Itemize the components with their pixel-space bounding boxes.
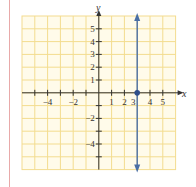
svg-text:2: 2 xyxy=(90,62,95,72)
svg-text:3: 3 xyxy=(90,49,95,59)
svg-text:−4: −4 xyxy=(43,97,53,107)
svg-text:−4: −4 xyxy=(85,139,95,149)
coordinate-plane: −4−21234554321−2−4 x y xyxy=(0,0,196,187)
svg-text:−2: −2 xyxy=(85,113,95,123)
x-axis-label: x xyxy=(181,88,187,99)
svg-text:1: 1 xyxy=(109,97,114,107)
svg-text:5: 5 xyxy=(90,24,95,34)
svg-text:−2: −2 xyxy=(68,97,78,107)
svg-text:1: 1 xyxy=(90,75,95,85)
svg-text:4: 4 xyxy=(90,37,95,47)
point-3-0 xyxy=(134,90,140,96)
svg-text:4: 4 xyxy=(148,97,153,107)
svg-text:2: 2 xyxy=(122,97,127,107)
svg-text:3: 3 xyxy=(131,97,136,107)
y-axis-label: y xyxy=(95,2,101,13)
svg-text:5: 5 xyxy=(161,97,166,107)
